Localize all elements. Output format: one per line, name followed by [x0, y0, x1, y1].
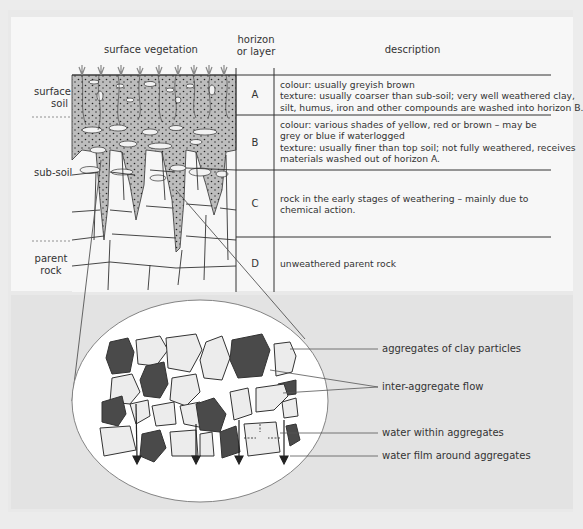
horizon-header-line-2: or layer	[236, 46, 276, 58]
desc-line: texture: usually finer than top soil; no…	[280, 142, 576, 153]
desc-line: materials washed out of horizon A.	[280, 153, 576, 164]
label-water-film: water film around aggregates	[382, 450, 531, 462]
horizon-header: horizon or layer	[236, 34, 276, 58]
horizon-header-line-1: horizon	[236, 34, 276, 46]
label-inter-aggregate-flow: inter-aggregate flow	[382, 381, 483, 393]
surface-vegetation-label: surface vegetation	[104, 44, 198, 56]
aggregate-inset	[72, 300, 328, 502]
label-water-within: water within aggregates	[382, 427, 504, 439]
vegetation	[79, 65, 227, 75]
surface-soil-label: surface soil	[34, 86, 68, 110]
desc-line: chemical action.	[280, 204, 528, 215]
horizon-a-description: colour: usually greyish brown texture: u…	[280, 79, 583, 113]
desc-line: colour: various shades of yellow, red or…	[280, 119, 576, 130]
horizon-c-description: rock in the early stages of weathering –…	[280, 193, 528, 216]
parent-rock-line-2: rock	[34, 265, 68, 277]
surface-soil-line-1: surface	[34, 86, 68, 98]
horizon-id-c: C	[236, 198, 274, 210]
label-aggregates-clay: aggregates of clay particles	[382, 343, 521, 355]
description-header: description	[274, 44, 551, 56]
desc-line: texture: usually coarser than sub-soil; …	[280, 90, 583, 101]
desc-line: silt, humus, iron and other compounds ar…	[280, 102, 583, 113]
parent-rock-line-1: parent	[34, 253, 68, 265]
horizon-id-b: B	[236, 137, 274, 149]
horizon-b-description: colour: various shades of yellow, red or…	[280, 119, 576, 164]
desc-line: rock in the early stages of weathering –…	[280, 193, 528, 204]
horizon-d-description: unweathered parent rock	[280, 258, 396, 269]
surface-soil-line-2: soil	[34, 98, 68, 110]
horizon-id-a: A	[236, 89, 274, 101]
desc-line: colour: usually greyish brown	[280, 79, 583, 90]
horizon-id-d: D	[236, 258, 274, 270]
sub-soil-label: sub-soil	[34, 167, 72, 179]
desc-line: unweathered parent rock	[280, 258, 396, 269]
desc-line: grey or blue if waterlogged	[280, 130, 576, 141]
parent-rock-label: parent rock	[34, 253, 68, 277]
